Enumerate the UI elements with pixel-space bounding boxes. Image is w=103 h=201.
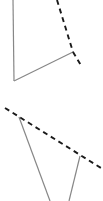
- lower-triangle-figure: [5, 108, 101, 201]
- upper-short-dashed-tail: [73, 52, 82, 67]
- figure-svg: [0, 0, 103, 201]
- lower-right-edge: [69, 156, 80, 201]
- upper-chevron-figure: [13, 0, 82, 81]
- upper-left-vertical-edge: [13, 0, 14, 81]
- upper-lower-diagonal-edge: [14, 52, 73, 81]
- lower-left-edge: [19, 117, 50, 201]
- upper-long-dashed-edge: [57, 0, 73, 52]
- drawing-canvas: [0, 0, 103, 201]
